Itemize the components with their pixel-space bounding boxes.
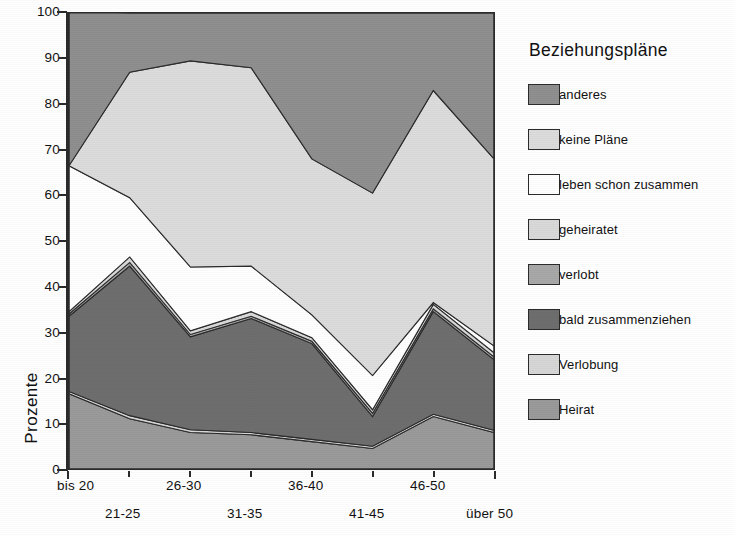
y-tick-100: 100 [26, 4, 60, 19]
y-tick-60: 60 [26, 187, 60, 202]
legend-item-label: anderes [559, 87, 607, 102]
y-tick-40: 40 [26, 279, 60, 294]
legend-item[interactable]: bald zusammenziehen [528, 308, 733, 330]
legend-item[interactable]: keine Pläne [528, 128, 733, 150]
y-tick-30: 30 [26, 325, 60, 340]
chart-figure: Prozente 100 90 80 70 60 50 40 30 20 10 … [0, 0, 733, 535]
x-tick-bis-20: bis 20 [57, 478, 94, 493]
legend-item[interactable]: verlobt [528, 263, 733, 285]
x-tick-26-30: 26-30 [166, 478, 202, 493]
x-tick-36-40: 36-40 [288, 478, 324, 493]
legend-swatch-icon [528, 174, 560, 195]
legend-swatch-icon [528, 129, 560, 150]
x-tick-ueber-50: über 50 [466, 506, 513, 521]
legend-item[interactable]: geheiratet [528, 218, 733, 240]
legend-item[interactable]: Heirat [528, 398, 733, 420]
legend-item-label: Verlobung [559, 357, 618, 372]
area-layers [69, 12, 494, 469]
y-tick-20: 20 [26, 371, 60, 386]
plot-area [68, 12, 495, 470]
y-tick-90: 90 [26, 50, 60, 65]
x-tick-21-25: 21-25 [105, 506, 141, 521]
legend-item[interactable]: Verlobung [528, 353, 733, 375]
y-tick-50: 50 [26, 233, 60, 248]
legend-item-label: geheiratet [559, 222, 618, 237]
legend-title: Beziehungspläne [529, 40, 733, 61]
legend-item-label: bald zusammenziehen [559, 312, 691, 327]
legend-items: andereskeine Pläneleben schon zusammenge… [528, 83, 733, 420]
y-tick-0: 0 [26, 462, 60, 477]
legend-item-label: verlobt [559, 267, 599, 282]
y-tick-10: 10 [26, 416, 60, 431]
legend-item-label: keine Pläne [559, 132, 628, 147]
legend-item[interactable]: anderes [528, 83, 733, 105]
legend-swatch-icon [528, 399, 560, 420]
legend-item-label: Heirat [559, 402, 594, 417]
legend-swatch-icon [528, 354, 560, 375]
chart-legend: Beziehungspläne andereskeine Pläneleben … [528, 40, 733, 443]
x-tick-46-50: 46-50 [410, 478, 446, 493]
legend-swatch-icon [528, 219, 560, 240]
legend-item-label: leben schon zusammen [559, 177, 698, 192]
legend-swatch-icon [528, 309, 560, 330]
legend-swatch-icon [528, 264, 560, 285]
x-tick-31-35: 31-35 [227, 506, 263, 521]
y-tick-70: 70 [26, 142, 60, 157]
y-tick-80: 80 [26, 96, 60, 111]
legend-item[interactable]: leben schon zusammen [528, 173, 733, 195]
x-tick-41-45: 41-45 [349, 506, 385, 521]
stacked-area-svg [68, 12, 495, 470]
y-axis-title: Prozente [22, 338, 42, 478]
legend-swatch-icon [528, 84, 560, 105]
